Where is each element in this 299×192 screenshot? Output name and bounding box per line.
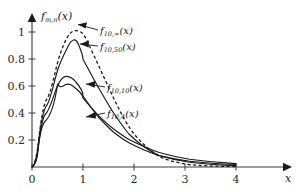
curve-label-f10-10-arg: (x): [129, 82, 143, 93]
curve-f10-50: [32, 40, 236, 167]
curve-label-f10-50: f10,50(x): [99, 41, 136, 54]
arrow-head-f10-10-icon: [86, 81, 96, 88]
curve-label-f10-50-sub: 10,50: [104, 46, 123, 54]
y-axis-label: fm,n(x): [40, 10, 72, 24]
figure-container: 0 1 2 3 4 0.2 0.4 0.6 0.8 1 fm,n(x) x: [0, 0, 299, 192]
curve-label-f10-inf-sub: 10,∞: [104, 30, 120, 38]
y-tick-label-0.4: 0.4: [8, 107, 26, 120]
y-tick-label-0.6: 0.6: [8, 80, 26, 93]
curve-label-f10-inf: f10,∞(x): [99, 25, 133, 38]
x-tick-label-2: 2: [131, 173, 138, 186]
x-axis-arrow-icon: [283, 163, 292, 172]
arrow-head-f10-inf-icon: [78, 22, 87, 28]
y-tick-label-1.0: 1: [18, 26, 25, 39]
y-tick-label-0.8: 0.8: [8, 53, 26, 66]
arrow-head-f10-50-icon: [80, 41, 89, 48]
curve-label-f10-10: f10,10(x): [106, 82, 143, 95]
curve-labels-group: f10,∞(x) f10,50(x) f10,10(x) f10,4(x): [99, 25, 143, 121]
arrow-head-f10-4-icon: [86, 112, 96, 119]
x-tick-label-1: 1: [80, 173, 87, 186]
y-tick-label-0.2: 0.2: [8, 134, 26, 147]
x-tick-label-3: 3: [182, 173, 189, 186]
y-axis-label-arg: (x): [58, 10, 73, 23]
curve-f10-4: [32, 84, 236, 167]
f-distribution-density-chart: 0 1 2 3 4 0.2 0.4 0.6 0.8 1 fm,n(x) x: [0, 0, 299, 192]
curve-label-f10-inf-arg: (x): [119, 25, 133, 36]
curve-label-f10-4-sub: 10,4: [111, 113, 125, 121]
curve-label-f10-4: f10,4(x): [106, 108, 139, 121]
curve-label-f10-4-arg: (x): [125, 108, 139, 119]
curve-label-f10-50-arg: (x): [122, 41, 136, 52]
x-tick-label-4: 4: [233, 173, 240, 186]
y-axis-label-sub: m,n: [45, 16, 57, 24]
annotation-leaders-group: [78, 22, 105, 118]
y-axis-arrow-icon: [28, 13, 37, 22]
curve-label-f10-10-sub: 10,10: [111, 87, 130, 95]
x-axis-label: x: [285, 172, 292, 185]
x-tick-label-0: 0: [29, 173, 36, 186]
